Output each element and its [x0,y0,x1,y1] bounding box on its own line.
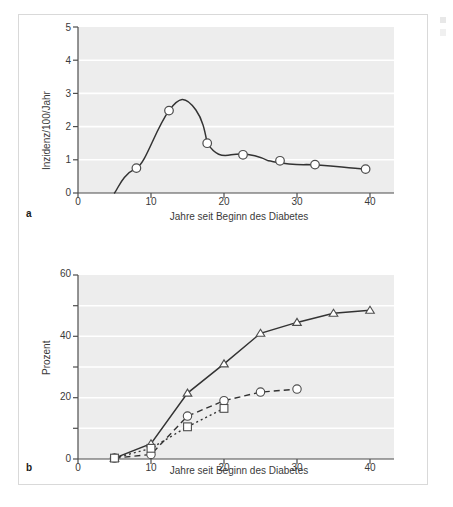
panel-a-plot [19,15,427,230]
figure-container: a Inzidenz/100/Jahr Jahre seit Beginn de… [0,0,453,507]
panel-b-plot [19,247,427,485]
panel-b: b Prozent Jahre seit Beginn des Diabetes… [19,247,427,485]
panel-a: a Inzidenz/100/Jahr Jahre seit Beginn de… [19,15,427,230]
figure-frame: a Inzidenz/100/Jahr Jahre seit Beginn de… [18,14,428,485]
page-edge-artifact [439,16,449,42]
